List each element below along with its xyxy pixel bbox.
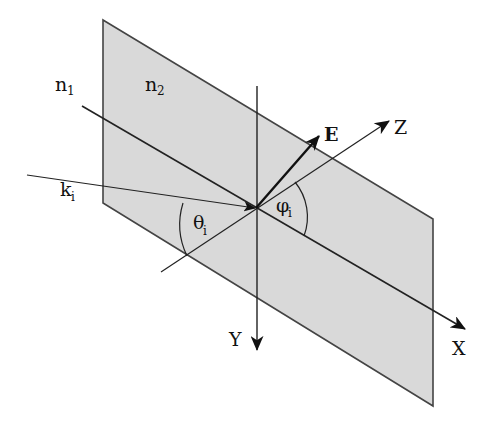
oblique-incidence-diagram: n 1 n 2 k i θ i φ i E Z X Y [0,0,484,434]
label-x: X [452,337,466,359]
svg-text:i: i [203,224,207,238]
svg-text:i: i [288,206,292,220]
svg-text:1: 1 [67,84,75,98]
svg-text:n: n [55,73,67,95]
label-n1: n 1 [55,73,75,98]
svg-text:2: 2 [157,84,165,98]
svg-text:i: i [71,190,75,204]
label-e: E [324,123,338,145]
label-z: Z [394,116,407,138]
label-y: Y [228,328,242,350]
svg-text:n: n [145,73,157,95]
